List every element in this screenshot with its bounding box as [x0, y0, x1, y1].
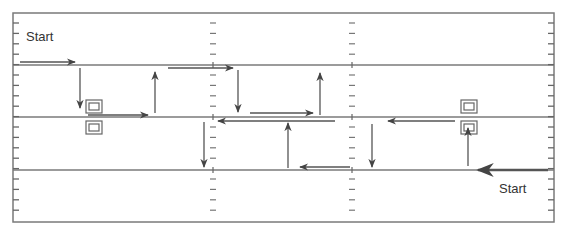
box-right-bottom-icon — [461, 121, 477, 134]
arrows — [20, 62, 548, 170]
path-diagram — [0, 0, 562, 230]
box-right-top-icon — [461, 100, 477, 113]
start-bottom-right-label: Start — [499, 181, 526, 196]
lane-lines — [13, 65, 554, 170]
start-top-left-label: Start — [26, 29, 53, 44]
